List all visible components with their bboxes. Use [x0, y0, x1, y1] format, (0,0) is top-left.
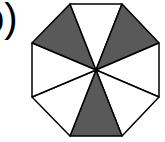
octagon-fraction-diagram: [0, 0, 165, 142]
